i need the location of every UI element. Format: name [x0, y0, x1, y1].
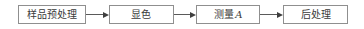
arrow-line — [86, 14, 103, 15]
arrow-line — [260, 14, 277, 15]
node-label: 样品预处理 — [27, 10, 77, 20]
flow-node-sample-pretreatment: 样品预处理 — [18, 5, 86, 24]
flow-node-color-development: 显色 — [109, 5, 174, 24]
flow-node-post-processing: 后处理 — [283, 5, 348, 24]
node-label: 测量 — [214, 10, 234, 20]
node-label: 后处理 — [301, 10, 331, 20]
flowchart: 样品预处理 显色 测量A 后处理 — [0, 0, 364, 29]
flow-arrow-3 — [260, 0, 283, 29]
absorbance-variable: A — [235, 10, 242, 20]
flow-node-measure-absorbance: 测量A — [196, 5, 260, 24]
flow-arrow-2 — [174, 0, 197, 29]
flow-arrow-1 — [86, 0, 109, 29]
arrow-line — [174, 14, 191, 15]
node-label: 显色 — [131, 10, 151, 20]
